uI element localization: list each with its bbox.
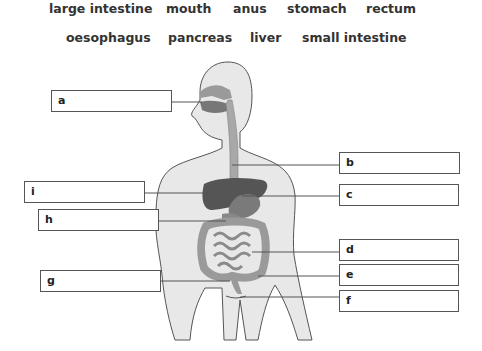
answer-box-a[interactable]: a [51, 90, 172, 112]
answer-box-d[interactable]: d [339, 239, 459, 261]
box-label-b: b [346, 156, 354, 169]
answer-box-i[interactable]: i [24, 181, 145, 203]
box-label-g: g [47, 274, 55, 287]
box-label-d: d [346, 243, 354, 256]
box-label-h: h [45, 213, 53, 226]
answer-box-f[interactable]: f [339, 290, 459, 312]
answer-box-g[interactable]: g [40, 270, 161, 292]
answer-box-b[interactable]: b [339, 152, 460, 174]
answer-box-h[interactable]: h [38, 209, 159, 231]
box-label-a: a [58, 94, 65, 107]
answer-box-c[interactable]: c [339, 184, 459, 206]
box-label-f: f [346, 294, 351, 307]
box-label-c: c [346, 188, 353, 201]
answer-box-e[interactable]: e [339, 264, 459, 286]
box-label-e: e [346, 268, 353, 281]
box-label-i: i [31, 185, 35, 198]
